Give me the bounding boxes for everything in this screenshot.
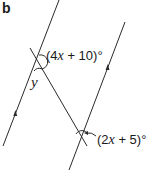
left-parallel-line — [3, 0, 59, 146]
angle-label-bottom: (2x + 5)° — [97, 132, 146, 148]
angle-top-prefix: (4 — [46, 48, 58, 63]
unknown-angle-label: y — [31, 74, 38, 91]
angle-label-top: (4x + 10)° — [46, 48, 103, 64]
angle-top-suffix: + 10)° — [64, 48, 103, 63]
angle-bottom-prefix: (2 — [97, 132, 109, 147]
angle-bottom-suffix: + 5)° — [115, 132, 147, 147]
angle-arc-y — [34, 68, 42, 71]
